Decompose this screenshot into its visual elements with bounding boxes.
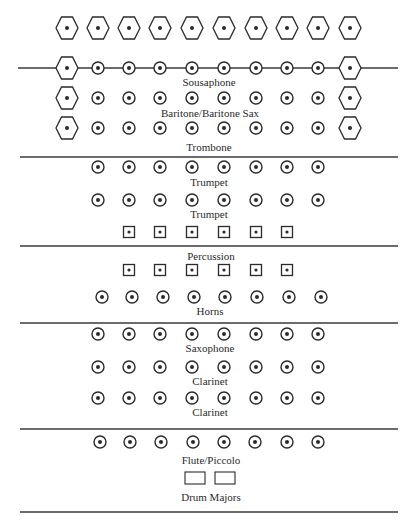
circle-dot-marker-icon	[154, 392, 166, 404]
clarinet-row-2	[92, 392, 324, 404]
percussion-row-1	[124, 227, 293, 238]
circle-dot-marker-icon	[123, 92, 135, 104]
saxophone-row	[92, 328, 324, 340]
label-trumpet-2: Trumpet	[190, 208, 228, 220]
label-trumpet-1: Trumpet	[190, 176, 228, 188]
circle-dot-marker-icon	[251, 291, 263, 303]
circle-dot-marker-icon	[123, 361, 135, 373]
square-dot-marker-icon	[155, 265, 166, 276]
circle-dot-marker-icon	[249, 436, 261, 448]
circle-dot-marker-icon	[218, 161, 230, 173]
square-dot-marker-icon	[155, 227, 166, 238]
circle-dot-marker-icon	[312, 328, 324, 340]
circle-dot-marker-icon	[250, 328, 262, 340]
flute-row	[94, 436, 324, 448]
circle-dot-marker-icon	[218, 62, 230, 74]
circle-dot-marker-icon	[250, 62, 262, 74]
circle-dot-marker-icon	[154, 92, 166, 104]
circle-dot-marker-icon	[188, 291, 200, 303]
drum-major-box-icon	[185, 472, 205, 484]
circle-dot-marker-icon	[250, 361, 262, 373]
circle-dot-marker-icon	[281, 194, 293, 206]
hexagon-row-top	[56, 17, 361, 39]
hexagon-marker-icon	[339, 117, 361, 139]
circle-dot-marker-icon	[312, 161, 324, 173]
clarinet-row-1	[92, 361, 324, 373]
circle-dot-marker-icon	[94, 436, 106, 448]
circle-dot-marker-icon	[312, 436, 324, 448]
circle-dot-marker-icon	[186, 361, 198, 373]
hexagon-marker-icon	[307, 17, 329, 39]
circle-dot-marker-icon	[155, 436, 167, 448]
baritone-row	[56, 87, 361, 109]
circle-dot-marker-icon	[281, 436, 293, 448]
circle-dot-marker-icon	[281, 92, 293, 104]
hexagon-marker-icon	[213, 17, 235, 39]
circle-dot-marker-icon	[92, 161, 104, 173]
circle-dot-marker-icon	[186, 92, 198, 104]
square-dot-marker-icon	[187, 227, 198, 238]
square-dot-marker-icon	[219, 227, 230, 238]
circle-dot-marker-icon	[186, 161, 198, 173]
circle-dot-marker-icon	[154, 361, 166, 373]
hexagon-marker-icon	[149, 17, 171, 39]
drum-majors-row	[185, 472, 235, 484]
hexagon-marker-icon	[87, 17, 109, 39]
circle-dot-marker-icon	[218, 328, 230, 340]
circle-dot-marker-icon	[312, 194, 324, 206]
label-clarinet-1: Clarinet	[192, 375, 227, 387]
hexagon-marker-icon	[339, 87, 361, 109]
circle-dot-marker-icon	[312, 92, 324, 104]
label-drum-majors: Drum Majors	[181, 491, 241, 503]
circle-dot-marker-icon	[126, 291, 138, 303]
circle-dot-marker-icon	[123, 161, 135, 173]
label-trombone: Trombone	[186, 141, 231, 153]
circle-dot-marker-icon	[218, 92, 230, 104]
hexagon-marker-icon	[56, 57, 78, 79]
circle-dot-marker-icon	[250, 161, 262, 173]
label-flute-piccolo: Flute/Piccolo	[182, 454, 241, 466]
square-dot-marker-icon	[219, 265, 230, 276]
hexagon-marker-icon	[181, 17, 203, 39]
circle-dot-marker-icon	[92, 392, 104, 404]
hexagon-marker-icon	[56, 87, 78, 109]
circle-dot-marker-icon	[250, 194, 262, 206]
hexagon-marker-icon	[245, 17, 267, 39]
circle-dot-marker-icon	[312, 122, 324, 134]
label-baritone: Baritone/Baritone Sax	[161, 107, 259, 119]
circle-dot-marker-icon	[312, 361, 324, 373]
label-percussion: Percussion	[187, 250, 235, 262]
hexagon-marker-icon	[339, 57, 361, 79]
circle-dot-marker-icon	[92, 122, 104, 134]
band-formation-diagram: Sousaphone Baritone/Baritone Sax Trombon…	[0, 0, 412, 526]
circle-dot-marker-icon	[186, 194, 198, 206]
hexagon-marker-icon	[56, 117, 78, 139]
square-dot-marker-icon	[124, 227, 135, 238]
circle-dot-marker-icon	[281, 122, 293, 134]
circle-dot-marker-icon	[186, 328, 198, 340]
label-saxophone: Saxophone	[186, 342, 235, 354]
trumpet-row-2	[92, 194, 324, 206]
circle-dot-marker-icon	[281, 161, 293, 173]
circle-dot-marker-icon	[283, 291, 295, 303]
circle-dot-marker-icon	[123, 62, 135, 74]
label-horns: Horns	[197, 305, 224, 317]
drum-major-box-icon	[215, 472, 235, 484]
circle-dot-marker-icon	[154, 328, 166, 340]
circle-dot-marker-icon	[218, 361, 230, 373]
circle-dot-marker-icon	[154, 122, 166, 134]
circle-dot-marker-icon	[281, 328, 293, 340]
circle-dot-marker-icon	[281, 392, 293, 404]
circle-dot-marker-icon	[315, 291, 327, 303]
circle-dot-marker-icon	[186, 62, 198, 74]
circle-dot-marker-icon	[124, 436, 136, 448]
circle-dot-marker-icon	[92, 328, 104, 340]
square-dot-marker-icon	[282, 265, 293, 276]
circle-dot-marker-icon	[123, 392, 135, 404]
hexagon-marker-icon	[56, 17, 78, 39]
hexagon-marker-icon	[276, 17, 298, 39]
circle-dot-marker-icon	[218, 436, 230, 448]
circle-dot-marker-icon	[154, 161, 166, 173]
square-dot-marker-icon	[282, 227, 293, 238]
circle-dot-marker-icon	[123, 328, 135, 340]
